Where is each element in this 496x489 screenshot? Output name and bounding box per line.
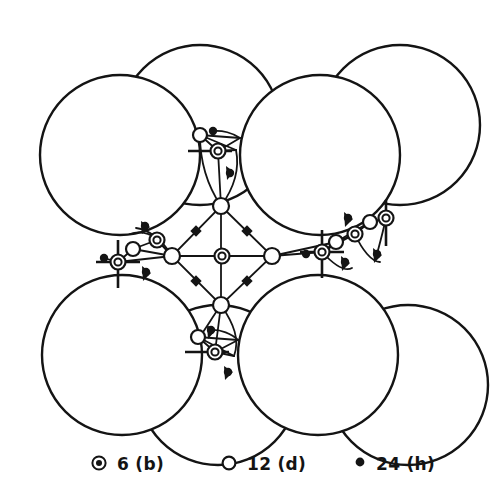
filled-dot-icon [356, 458, 365, 467]
site-12d [213, 198, 229, 214]
site-6b [211, 144, 226, 159]
open-circle-icon [223, 457, 236, 470]
legend-label-24h: 24 (h) [376, 454, 435, 474]
site-6b [379, 211, 394, 226]
large-sphere-front [238, 275, 398, 435]
large-sphere-front [240, 75, 400, 235]
structure-canvas: 6 (b) 12 (d) 24 (h) [0, 0, 496, 489]
site-12d [264, 248, 280, 264]
site-12d [329, 235, 343, 249]
site-24h [209, 127, 217, 135]
large-sphere-front [40, 75, 200, 235]
site-6b [215, 249, 230, 264]
site-12d [191, 330, 205, 344]
site-12d [363, 215, 377, 229]
site-6b [150, 233, 165, 248]
large-sphere-front [42, 275, 202, 435]
legend-label-6b: 6 (b) [117, 454, 164, 474]
site-6b [315, 245, 330, 260]
legend-label-12d: 12 (d) [247, 454, 306, 474]
site-12d [193, 128, 207, 142]
double-circle-icon [92, 456, 105, 469]
site-24h [302, 250, 310, 258]
site-6b [348, 227, 363, 242]
site-6b [111, 255, 126, 270]
crystal-structure-figure: 6 (b) 12 (d) 24 (h) [0, 0, 496, 489]
site-6b [208, 345, 223, 360]
legend: 6 (b) 12 (d) 24 (h) [92, 454, 435, 474]
site-12d [164, 248, 180, 264]
site-24h [100, 254, 108, 262]
site-12d [213, 297, 229, 313]
site-12d [126, 242, 140, 256]
